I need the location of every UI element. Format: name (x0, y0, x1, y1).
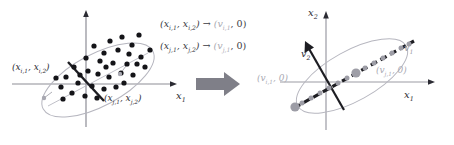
eigenvector-v2-label: v2 (301, 49, 310, 61)
left-point-j-label: (xj,1, xj,2) (104, 94, 141, 106)
pca-projection-figure: (xi,1, xi,2) (xj,1, xj,2) x1 (xi,1, xi,2… (0, 0, 454, 145)
eigenvector-v1-label: v1 (404, 43, 413, 55)
right-x-axis-label: x1 (404, 90, 414, 102)
right-y-axis-label: x2 (308, 8, 318, 20)
right-point-i-label: (vi,1, 0) (257, 74, 288, 86)
right-panel: x2 x1 v1 v2 (vi,1, 0) (vj,1, 0) (280, 0, 454, 145)
right-point-j-label: (vj,1, 0) (376, 66, 407, 78)
left-point-i-label: (xi,1, xi,2) (12, 63, 50, 75)
right-panel-graphic (280, 0, 454, 145)
